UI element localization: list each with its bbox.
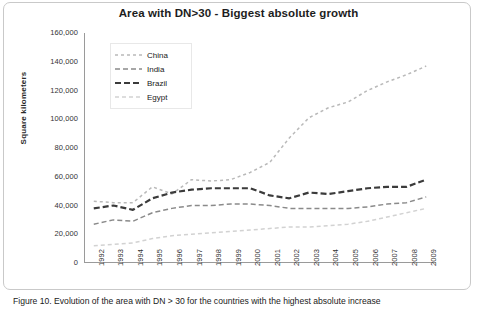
- series-line-egypt: [94, 208, 426, 245]
- x-axis-tick-labels: 1992199319941995199619971998199920002001…: [84, 266, 436, 296]
- x-tick-label: 1995: [155, 249, 164, 266]
- x-tick-label: 1993: [116, 249, 125, 266]
- legend-label: Brazil: [147, 79, 167, 88]
- x-tick-label: 1996: [175, 249, 184, 266]
- series-line-india: [94, 197, 426, 224]
- x-tick-label: 1997: [195, 249, 204, 266]
- y-tick-label: 140,000: [32, 57, 78, 66]
- legend-item-brazil[interactable]: Brazil: [115, 76, 186, 90]
- x-tick-label: 2009: [429, 249, 438, 266]
- y-tick-label: 80,000: [32, 143, 78, 152]
- figure-page: Area with DN>30 - Biggest absolute growt…: [0, 0, 477, 310]
- y-axis-tick-labels: 160,000140,000120,000100,00080,00060,000…: [30, 33, 78, 263]
- legend-label: China: [147, 51, 168, 60]
- x-tick-label: 2002: [292, 249, 301, 266]
- x-tick-label: 2006: [371, 249, 380, 266]
- x-tick-label: 2001: [273, 249, 282, 266]
- x-tick-label: 1992: [97, 249, 106, 266]
- x-tick-label: 1994: [136, 249, 145, 266]
- y-tick-label: 120,000: [32, 86, 78, 95]
- legend-swatch-egypt: [115, 93, 142, 101]
- chart-legend: ChinaIndiaBrazilEgypt: [110, 43, 192, 109]
- legend-label: Egypt: [147, 93, 167, 102]
- legend-swatch-india: [115, 65, 142, 73]
- y-tick-label: 20,000: [32, 229, 78, 238]
- y-tick-label: 0: [32, 258, 78, 267]
- legend-item-egypt[interactable]: Egypt: [115, 90, 186, 104]
- legend-item-india[interactable]: India: [115, 62, 186, 76]
- x-tick-label: 2004: [331, 249, 340, 266]
- y-tick-label: 40,000: [32, 201, 78, 210]
- legend-item-china[interactable]: China: [115, 48, 186, 62]
- y-tick-label: 60,000: [32, 172, 78, 181]
- legend-swatch-brazil: [115, 79, 142, 87]
- legend-swatch-china: [115, 51, 142, 59]
- chart-title: Area with DN>30 - Biggest absolute growt…: [0, 7, 477, 19]
- x-tick-label: 2008: [410, 249, 419, 266]
- x-tick-label: 1999: [234, 249, 243, 266]
- x-tick-label: 2000: [253, 249, 262, 266]
- figure-caption: Figure 10. Evolution of the area with DN…: [13, 296, 468, 306]
- y-tick-label: 100,000: [32, 114, 78, 123]
- legend-label: India: [147, 65, 164, 74]
- x-tick-label: 2007: [390, 249, 399, 266]
- y-axis-title: Square kilometers: [19, 48, 28, 168]
- y-tick-label: 160,000: [32, 28, 78, 37]
- x-tick-label: 2003: [312, 249, 321, 266]
- x-tick-label: 1998: [214, 249, 223, 266]
- x-tick-label: 2005: [351, 249, 360, 266]
